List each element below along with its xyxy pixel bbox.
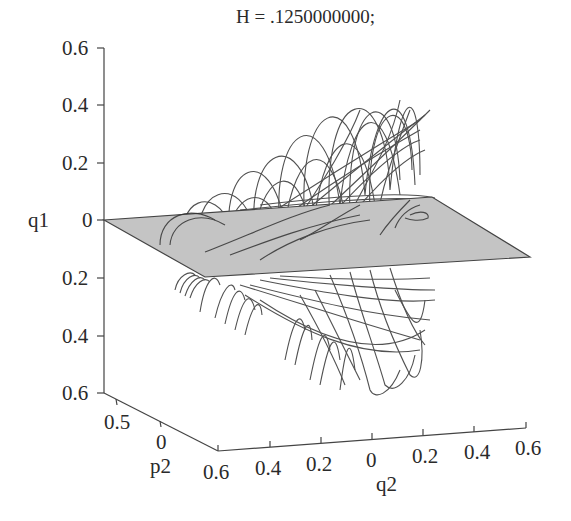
q1-tick-label: 0.6 (62, 383, 88, 404)
p2-tick-label: 0.5 (104, 412, 130, 433)
q2-tick-label: 0.6 (515, 438, 541, 459)
q1-tick-label: 0.2 (62, 153, 88, 174)
q2-tick-label: 0.4 (255, 458, 281, 479)
q1-tick-label: 0.2 (62, 268, 88, 289)
q2-tick-label: 0.2 (306, 454, 332, 475)
q1-tick-label: 0.4 (62, 326, 88, 347)
trajectory-lower (175, 268, 435, 395)
q1-axis-label: q1 (28, 210, 49, 231)
q1-tick-label: 0.4 (62, 95, 88, 116)
q2-axis-label: q2 (376, 474, 397, 495)
p2-axis-label: p2 (150, 456, 171, 477)
q1-axis (97, 48, 104, 393)
q1-tick-label: 0.6 (62, 38, 88, 59)
q2-tick-label: 0.4 (464, 442, 490, 463)
q2-tick-label: 0.6 (203, 462, 229, 483)
q1-tick-label: 0 (82, 210, 93, 231)
q2-tick-label: 0 (366, 450, 377, 471)
p2-tick-label: 0 (156, 432, 167, 453)
q2-tick-label: 0.2 (412, 446, 438, 467)
